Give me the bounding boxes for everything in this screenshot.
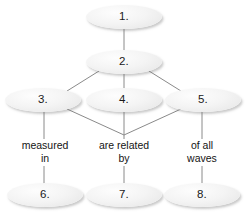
concept-node-8[interactable]: 8. <box>164 183 240 207</box>
concept-node-7-label: 7. <box>119 189 129 201</box>
concept-node-3[interactable]: 3. <box>5 88 81 112</box>
concept-node-4[interactable]: 4. <box>86 88 162 112</box>
concept-node-3-label: 3. <box>38 94 48 106</box>
concept-node-8-label: 8. <box>197 189 207 201</box>
concept-node-5[interactable]: 5. <box>165 88 241 112</box>
concept-node-6[interactable]: 6. <box>7 183 83 207</box>
concept-node-4-label: 4. <box>119 94 129 106</box>
connector-5-to-junction <box>124 109 181 135</box>
concept-node-1-label: 1. <box>119 11 129 23</box>
concept-node-1[interactable]: 1. <box>86 5 162 29</box>
connector-3-to-junction <box>67 109 124 135</box>
edge-label-are-related-by: are related by <box>84 139 164 164</box>
connector-2-to-3 <box>67 71 99 91</box>
concept-node-5-label: 5. <box>198 94 208 106</box>
concept-node-2[interactable]: 2. <box>86 50 162 74</box>
concept-node-6-label: 6. <box>40 189 50 201</box>
concept-node-2-label: 2. <box>119 56 129 68</box>
edge-label-measured-in: measured in <box>5 139 85 164</box>
edge-label-of-all-waves: of all waves <box>162 139 242 164</box>
concept-node-7[interactable]: 7. <box>86 183 162 207</box>
concept-map-diagram: 1. 2. 3. 4. 5. 6. 7. 8. measured in are … <box>0 0 247 224</box>
connector-2-to-5 <box>149 71 181 91</box>
